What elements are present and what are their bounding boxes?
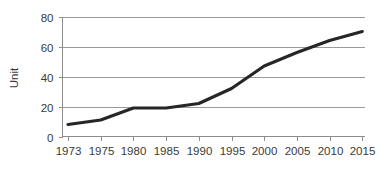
x-tick-label: 1975 bbox=[89, 145, 115, 157]
x-tick-label: 2010 bbox=[318, 145, 344, 157]
y-axis-title: Unit bbox=[8, 67, 20, 88]
y-tick-label: 20 bbox=[41, 102, 54, 114]
y-tick-label: 80 bbox=[41, 12, 54, 24]
y-tick-label: 40 bbox=[41, 72, 54, 84]
x-tick-label: 2015 bbox=[350, 145, 376, 157]
x-tick-label: 1985 bbox=[154, 145, 180, 157]
y-tick-label: 60 bbox=[41, 42, 54, 54]
chart-canvas: 020406080 197319751980198519901995200020… bbox=[0, 0, 380, 169]
x-tick-label: 1990 bbox=[187, 145, 213, 157]
x-tick-label: 1995 bbox=[220, 145, 246, 157]
y-tick-label: 0 bbox=[47, 132, 53, 144]
x-tick-label: 1973 bbox=[56, 145, 82, 157]
x-tick-label: 1980 bbox=[121, 145, 147, 157]
x-tick-label: 2000 bbox=[252, 145, 278, 157]
line-chart: 020406080 197319751980198519901995200020… bbox=[0, 0, 380, 169]
x-tick-label: 2005 bbox=[285, 145, 311, 157]
